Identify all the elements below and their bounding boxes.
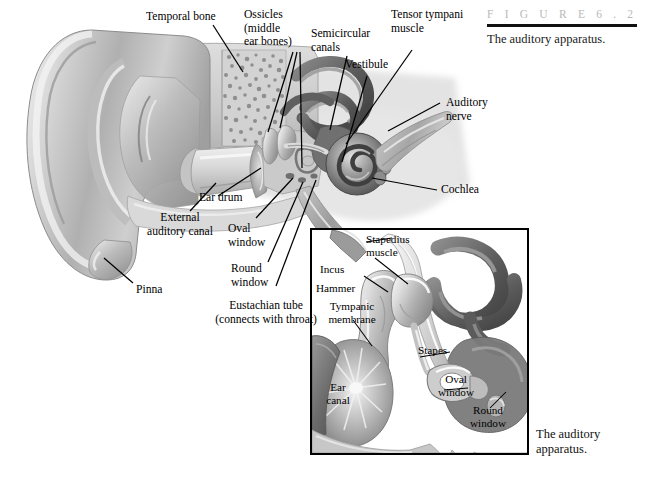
label-hammer: Hammer: [316, 282, 355, 295]
label-ossicles: Ossicles (middle ear bones): [244, 8, 292, 49]
auditory-apparatus-illustration: [0, 0, 647, 484]
label-cochlea: Cochlea: [441, 183, 479, 197]
label-inset-round-window: Round window: [458, 404, 518, 430]
pinna-outer-ear: [27, 30, 210, 280]
figure-caption: The auditory apparatus.: [487, 32, 639, 48]
figure-number: F I G U R E 6 . 2: [487, 8, 639, 20]
inset-caption: The auditory apparatus.: [536, 427, 644, 457]
label-tympanic-membrane: Tympanic membrane: [312, 300, 392, 326]
label-stapedius-muscle: Stapedius muscle: [366, 233, 410, 259]
label-stapes: Stapes: [418, 344, 447, 357]
label-incus: Incus: [320, 263, 344, 276]
label-vestibule: Vestibule: [345, 58, 388, 72]
label-oval-window: Oval window: [228, 222, 265, 249]
label-ear-drum: Ear drum: [199, 191, 242, 205]
label-external-auditory-canal: External auditory canal: [118, 211, 242, 238]
label-semicircular-canals: Semicircular canals: [311, 27, 370, 54]
label-pinna: Pinna: [136, 283, 162, 297]
label-inset-oval-window: Oval window: [428, 373, 484, 399]
label-tensor-tympani: Tensor tympani muscle: [391, 8, 463, 35]
figure-header: F I G U R E 6 . 2 The auditory apparatus…: [487, 8, 639, 48]
label-temporal-bone: Temporal bone: [146, 10, 216, 24]
label-ear-canal: Ear canal: [316, 381, 360, 407]
figure-rule: [487, 24, 637, 27]
label-round-window: Round window: [231, 262, 268, 289]
label-auditory-nerve: Auditory nerve: [446, 96, 488, 123]
figure-root: F I G U R E 6 . 2 The auditory apparatus…: [0, 0, 647, 484]
